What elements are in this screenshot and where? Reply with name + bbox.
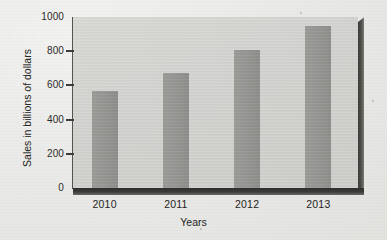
bar-2011 [163, 73, 189, 188]
chart-page: 02004006008001000 Sales in billions of d… [0, 0, 387, 240]
y-tick-800 [66, 50, 74, 52]
y-tick-400 [66, 119, 74, 121]
plot-area [73, 17, 358, 188]
y-tick-600 [66, 84, 74, 86]
y-tick-200 [66, 153, 74, 155]
y-axis-tick-labels: 02004006008001000 [12, 0, 64, 240]
bar-chart: 02004006008001000 Sales in billions of d… [0, 0, 387, 240]
x-tick-label-2013: 2013 [288, 198, 348, 210]
y-axis-line [72, 17, 73, 189]
bar-2010 [92, 91, 118, 188]
plot-bottom-shadow [73, 188, 364, 195]
x-tick-label-2010: 2010 [75, 198, 135, 210]
x-axis-title: Years [0, 216, 387, 228]
y-axis-title: Sales in billions of dollars [21, 28, 33, 188]
x-tick-label-2011: 2011 [146, 198, 206, 210]
bar-2013 [305, 26, 331, 188]
plot-right-shadow [358, 17, 364, 192]
y-tick-label-1000: 1000 [18, 12, 64, 22]
bar-2012 [234, 50, 260, 189]
x-tick-label-2012: 2012 [217, 198, 277, 210]
